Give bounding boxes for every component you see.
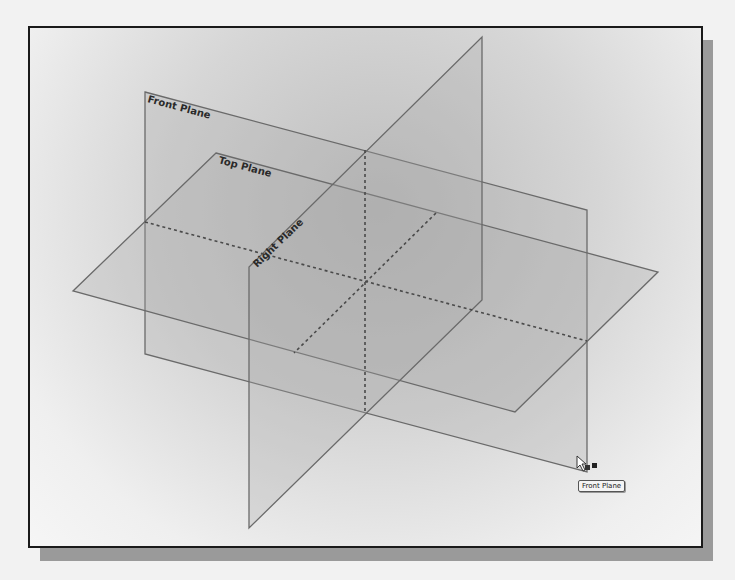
- plane-selection-icon: [585, 465, 590, 470]
- hover-tooltip: Front Plane: [578, 480, 625, 492]
- planes-scene: Front Plane Top Plane Right Plane: [0, 0, 735, 580]
